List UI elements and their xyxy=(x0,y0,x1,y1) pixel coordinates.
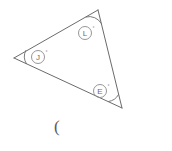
angle-arc-bottom-right xyxy=(108,94,118,101)
angle-arc-left xyxy=(24,50,26,64)
angle-arc-top xyxy=(86,17,102,24)
angle-label-top: L ° xyxy=(79,25,95,40)
angle-label-left-letter: J xyxy=(36,53,40,62)
angle-label-top-degree: ° xyxy=(93,25,95,31)
diagram-canvas: L ° J ° E ° ( xyxy=(0,0,172,151)
caption-parenthesis: ( xyxy=(54,118,60,135)
angle-label-bottom-right-degree: ° xyxy=(108,83,110,89)
angle-label-top-letter: L xyxy=(83,29,88,38)
angle-label-left: J ° xyxy=(32,49,48,64)
side-bottom-right-to-left xyxy=(14,58,122,108)
triangle-figure: L ° J ° E ° xyxy=(0,0,172,151)
angle-label-bottom-right: E ° xyxy=(94,83,110,98)
angle-label-left-degree: ° xyxy=(46,49,48,55)
angle-label-bottom-right-letter: E xyxy=(97,87,102,96)
